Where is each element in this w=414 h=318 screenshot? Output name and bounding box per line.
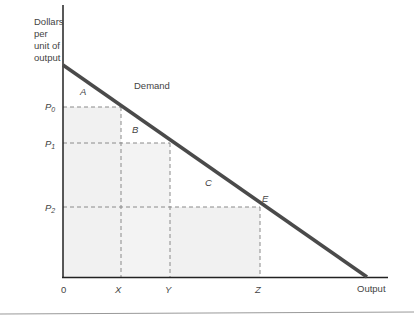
p1-sub: 1: [51, 143, 55, 150]
z-tick-label: Z: [255, 284, 261, 295]
y-axis-label: Dollars per unit of output: [34, 16, 64, 64]
point-e-label: E: [262, 193, 268, 204]
y-axis-label-line: per: [34, 28, 64, 40]
region-b-label: B: [132, 124, 138, 135]
p0-sub: 0: [51, 106, 55, 113]
p2-sub: 2: [51, 207, 55, 214]
region-c-label: C: [205, 177, 212, 188]
p2-tick-label: P2: [45, 202, 55, 216]
x-axis-label: Output: [357, 283, 386, 294]
y-axis-label-line: unit of: [34, 40, 64, 52]
demand-label: Demand: [134, 80, 170, 91]
shade-region: [121, 143, 170, 277]
y-axis-label-line: output: [34, 52, 64, 64]
p0-tick-label: P0: [45, 101, 55, 115]
region-a-label: A: [80, 86, 86, 97]
origin-label: 0: [61, 284, 66, 295]
x-tick-label: X: [115, 284, 121, 295]
p1-tick-label: P1: [45, 138, 55, 152]
shade-region: [63, 107, 121, 277]
y-axis-label-line: Dollars: [34, 16, 64, 28]
divider: [0, 312, 414, 314]
y-tick-label: Y: [165, 284, 171, 295]
shade-region: [170, 207, 260, 277]
